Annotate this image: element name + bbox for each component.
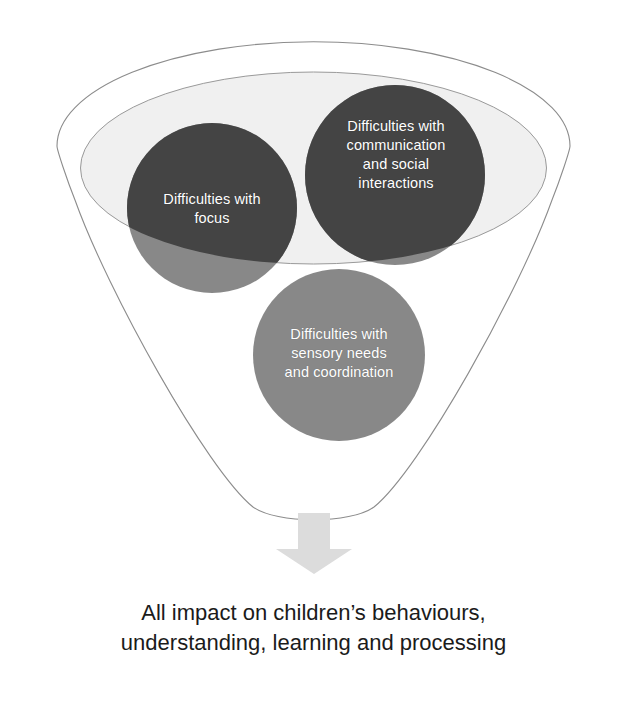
bubble-sensory: [253, 269, 425, 441]
impact-caption: All impact on children’s behaviours, und…: [30, 598, 597, 659]
bubble-focus: [127, 123, 297, 293]
funnel-diagram: Difficulties with focus Difficulties wit…: [0, 0, 627, 701]
down-arrow-icon: [276, 513, 352, 574]
bubble-communication: [305, 85, 485, 265]
funnel-graphic: [0, 0, 627, 701]
